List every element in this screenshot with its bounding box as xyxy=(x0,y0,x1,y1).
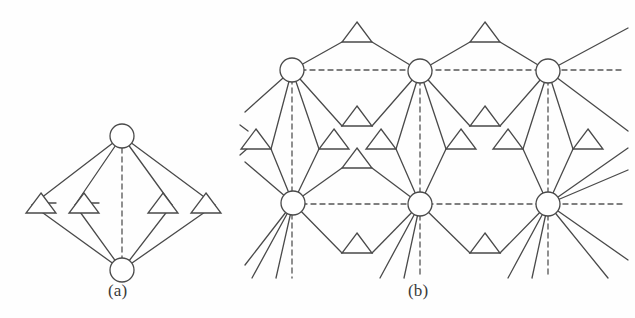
panel-b-edge-38 xyxy=(548,204,628,260)
lattice-diagram-svg xyxy=(0,0,635,318)
panel-b-tri-bottom-2 xyxy=(470,233,500,253)
panel-b-tri-band-1 xyxy=(241,129,271,149)
panel-b-tri-band-2 xyxy=(319,129,349,149)
panel-a-bottom-vertex xyxy=(110,258,134,282)
panel-b-tri-band-4 xyxy=(446,129,476,149)
panel-b-tri-top-1 xyxy=(342,22,372,42)
panel-b-circle-bottom-right xyxy=(536,192,560,216)
panel-b-edge-24 xyxy=(548,148,628,204)
panel-b-tri-bottom-1 xyxy=(342,233,372,253)
panel-b-edge-31 xyxy=(252,203,293,278)
panel-a-triangle-4 xyxy=(191,193,221,213)
panel-b-edge-39 xyxy=(548,170,628,204)
panel-b-tri-band-6 xyxy=(573,129,603,149)
panel-b-edge-4 xyxy=(548,28,628,71)
panel-a-edge-4 xyxy=(32,205,122,270)
panel-b-tri-band-3 xyxy=(366,129,396,149)
panel-a-top-vertex xyxy=(110,124,134,148)
panel-b-circle-bottom-left xyxy=(281,191,305,215)
panel-b-tri-top-2 xyxy=(470,22,500,42)
panel-b-edge-15 xyxy=(240,125,248,131)
panel-caption-b: (b) xyxy=(408,281,428,301)
panel-b-circle-top-right xyxy=(536,59,560,83)
panel-b-circle-bottom-mid xyxy=(408,192,432,216)
panel-b-circle-top-mid xyxy=(408,59,432,83)
panel-b-edge-16 xyxy=(548,71,628,131)
panel-a-triangle-3 xyxy=(148,193,178,213)
panel-b-circle-top-left xyxy=(280,58,304,82)
panel-b-tri-band-5 xyxy=(493,129,523,149)
figure-root: (a) (b) xyxy=(0,0,635,318)
panel-b-tri-mid-lower-1 xyxy=(342,148,372,168)
panel-caption-a: (a) xyxy=(108,281,127,301)
panel-a-edge-0 xyxy=(32,136,122,205)
panel-a-edge-7 xyxy=(122,205,215,270)
panel-b-tri-mid-upper-2 xyxy=(470,106,500,126)
panel-b-tri-mid-upper-1 xyxy=(342,106,372,126)
panel-b-edge-37 xyxy=(548,204,608,278)
panel-a-edge-3 xyxy=(122,136,215,205)
